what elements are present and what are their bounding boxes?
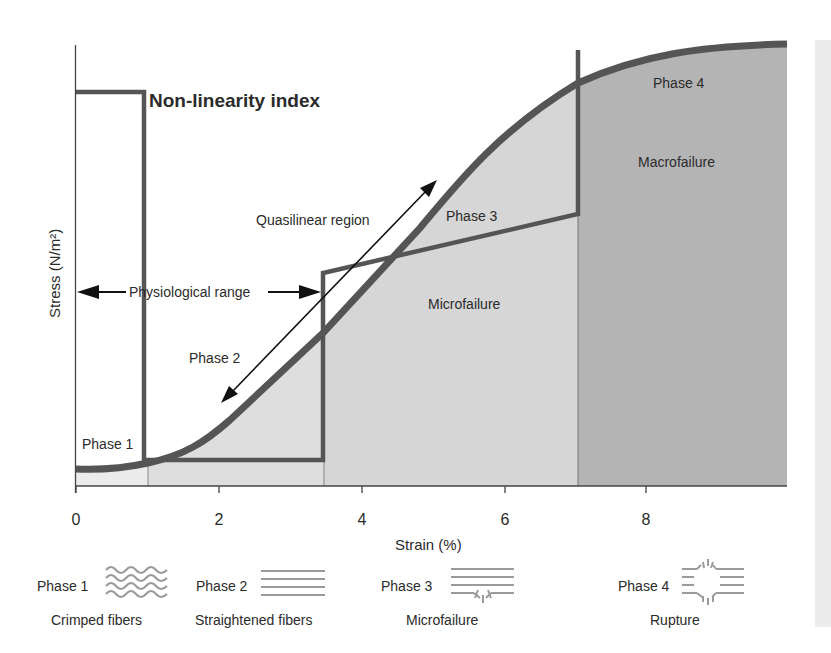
svg-text:Microfailure: Microfailure bbox=[406, 612, 479, 628]
quasilinear-label: Quasilinear region bbox=[256, 212, 370, 228]
phase4-region bbox=[578, 44, 787, 486]
legend-item-phase2: Phase 2 Straightened fibers bbox=[195, 571, 325, 628]
physiological-range-label: Physiological range bbox=[129, 284, 251, 300]
stress-strain-diagram: Non-linearity index Quasilinear region P… bbox=[0, 0, 831, 653]
svg-text:Phase 3: Phase 3 bbox=[381, 578, 433, 594]
svg-text:Phase 1: Phase 1 bbox=[37, 578, 89, 594]
legend-item-phase3: Phase 3 Microfailure bbox=[381, 569, 514, 628]
svg-text:Crimped fibers: Crimped fibers bbox=[51, 612, 142, 628]
svg-text:Phase 4: Phase 4 bbox=[618, 578, 670, 594]
svg-text:Straightened fibers: Straightened fibers bbox=[195, 612, 313, 628]
x-axis-label: Strain (%) bbox=[395, 536, 462, 553]
x-tick-labels: 0 2 4 6 8 bbox=[72, 511, 651, 528]
x-ticks bbox=[76, 486, 646, 493]
svg-text:Phase 2: Phase 2 bbox=[196, 578, 248, 594]
wavy-fibers-icon bbox=[106, 567, 167, 597]
svg-text:8: 8 bbox=[642, 511, 651, 528]
phase3-label: Phase 3 bbox=[446, 208, 498, 224]
y-axis-label: Stress (N/m²) bbox=[46, 229, 63, 318]
svg-text:4: 4 bbox=[358, 511, 367, 528]
phase1-label: Phase 1 bbox=[82, 436, 134, 452]
svg-text:0: 0 bbox=[72, 511, 81, 528]
microfailure-label: Microfailure bbox=[428, 296, 501, 312]
svg-text:Rupture: Rupture bbox=[650, 612, 700, 628]
macrofailure-label: Macrofailure bbox=[638, 154, 715, 170]
svg-text:6: 6 bbox=[501, 511, 510, 528]
straight-fibers-icon bbox=[261, 571, 325, 595]
legend-item-phase1: Phase 1 Crimped fibers bbox=[37, 567, 167, 628]
figure-title: Non-linearity index bbox=[149, 90, 320, 111]
legend: Phase 1 Crimped fibers Phase 2 Straighte… bbox=[37, 559, 744, 628]
svg-text:2: 2 bbox=[215, 511, 224, 528]
phase3-region bbox=[323, 83, 578, 486]
legend-item-phase4: Phase 4 Rupture bbox=[618, 559, 744, 628]
phase4-label: Phase 4 bbox=[653, 75, 705, 91]
rupture-fibers-icon bbox=[682, 559, 744, 605]
phase2-label: Phase 2 bbox=[189, 350, 241, 366]
microfailure-fibers-icon bbox=[451, 569, 514, 603]
